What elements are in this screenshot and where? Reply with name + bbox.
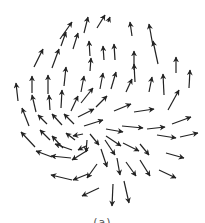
arrow-icon <box>122 126 143 128</box>
arrow-icon <box>111 72 116 89</box>
arrow-icon <box>64 67 66 86</box>
arrow-icon <box>21 132 35 147</box>
arrow-icon <box>123 143 139 151</box>
arrow-icon <box>180 133 198 137</box>
arrow-group <box>16 15 198 206</box>
arrow-icon <box>73 134 83 136</box>
arrow-icon <box>32 95 36 112</box>
arrow-icon <box>114 104 131 111</box>
arrow-icon <box>172 117 191 124</box>
arrow-icon <box>101 149 107 167</box>
arrow-icon <box>134 109 154 112</box>
arrow-icon <box>96 96 107 107</box>
arrow-icon <box>38 115 47 124</box>
arrow-icon <box>157 135 176 138</box>
arrow-icon <box>108 17 110 22</box>
arrow-icon <box>34 49 43 67</box>
arrow-icon <box>189 70 190 88</box>
arrow-icon <box>126 79 132 92</box>
arrow-icon <box>81 88 93 103</box>
arrow-icon <box>51 156 71 158</box>
arrow-icon <box>51 175 72 180</box>
arrow-icon <box>36 151 52 157</box>
arrow-icon <box>16 83 18 101</box>
arrow-icon <box>52 49 59 68</box>
arrow-icon <box>149 24 153 46</box>
arrow-icon <box>82 188 99 196</box>
figure-caption: (a) <box>0 217 205 223</box>
arrow-icon <box>22 108 29 126</box>
arrow-icon <box>64 114 74 124</box>
arrow-icon <box>112 184 113 206</box>
arrow-icon <box>66 133 75 140</box>
arrow-icon <box>81 76 84 92</box>
arrow-icon <box>124 181 129 203</box>
arrow-icon <box>106 129 123 132</box>
arrow-icon <box>130 22 132 36</box>
arrow-icon <box>97 15 105 28</box>
arrow-icon <box>147 127 165 129</box>
vector-field-diagram <box>0 0 205 223</box>
arrow-icon <box>103 46 104 60</box>
arrow-icon <box>73 174 88 180</box>
arrow-icon <box>159 170 176 178</box>
arrow-icon <box>126 162 136 176</box>
arrow-icon <box>140 144 149 155</box>
arrow-icon <box>84 120 103 126</box>
arrow-icon <box>89 41 90 56</box>
arrow-icon <box>166 153 184 158</box>
arrow-icon <box>78 146 86 150</box>
arrow-icon <box>87 164 97 178</box>
arrow-icon <box>60 22 72 39</box>
arrow-icon <box>149 77 152 92</box>
arrow-icon <box>40 130 50 140</box>
arrow-icon <box>55 144 72 150</box>
arrow-icon <box>163 74 164 95</box>
arrow-icon <box>168 90 179 110</box>
arrow-icon <box>140 160 150 176</box>
arrow-icon <box>73 33 78 49</box>
arrow-icon <box>100 73 103 89</box>
arrow-icon <box>84 17 88 33</box>
arrow-icon <box>114 44 115 60</box>
arrow-icon <box>153 41 158 64</box>
arrow-icon <box>71 96 78 111</box>
arrow-icon <box>61 90 62 108</box>
arrow-icon <box>52 114 62 125</box>
arrow-icon <box>90 58 91 71</box>
arrow-icon <box>90 134 99 145</box>
arrow-icon <box>105 140 115 155</box>
arrow-icon <box>117 158 120 175</box>
arrow-icon <box>78 109 94 117</box>
arrow-icon <box>49 95 50 110</box>
arrow-icon <box>134 64 135 82</box>
